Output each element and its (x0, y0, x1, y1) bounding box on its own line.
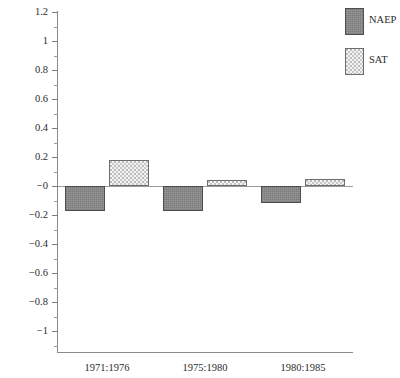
y-tick-minor (54, 172, 58, 173)
bar-sat-1[interactable] (207, 180, 247, 186)
y-tick-major (52, 331, 58, 332)
y-axis-line (57, 11, 58, 352)
y-tick-major (52, 157, 58, 158)
y-tick-label: −1 (0, 326, 48, 337)
sat-swatch-icon (345, 48, 364, 75)
y-tick-label: 1.2 (0, 7, 48, 18)
bar-naep-1[interactable] (163, 186, 203, 211)
x-tick-label: 1975:1980 (156, 362, 254, 373)
y-tick-label: 0.4 (0, 123, 48, 134)
x-tick-label: 1980:1985 (254, 362, 352, 373)
y-tick-minor (54, 114, 58, 115)
y-tick-minor (54, 288, 58, 289)
y-tick-label: −0.4 (0, 239, 48, 250)
legend: NAEP SAT (345, 8, 400, 88)
y-tick-major (52, 99, 58, 100)
legend-item-sat[interactable]: SAT (345, 48, 400, 88)
y-tick-label: −0.6 (0, 268, 48, 279)
legend-label-sat: SAT (369, 54, 388, 65)
y-tick-label: −0 (0, 181, 48, 192)
y-tick-minor (54, 143, 58, 144)
y-tick-label: −0.8 (0, 297, 48, 308)
y-tick-major (52, 302, 58, 303)
y-tick-minor (54, 85, 58, 86)
y-tick-minor (54, 259, 58, 260)
y-tick-major (52, 244, 58, 245)
x-tick-label: 1971:1976 (58, 362, 156, 373)
bar-sat-0[interactable] (109, 160, 149, 186)
y-tick-label: 0.8 (0, 65, 48, 76)
y-tick-major (52, 128, 58, 129)
legend-label-naep: NAEP (369, 14, 396, 25)
y-tick-minor (54, 56, 58, 57)
legend-item-naep[interactable]: NAEP (345, 8, 400, 48)
y-tick-minor (54, 346, 58, 347)
y-tick-major (52, 186, 58, 187)
bar-naep-0[interactable] (65, 186, 105, 211)
y-tick-major (52, 12, 58, 13)
y-tick-minor (54, 27, 58, 28)
x-axis-line (57, 352, 353, 353)
y-tick-major (52, 273, 58, 274)
bar-sat-2[interactable] (305, 179, 345, 186)
y-tick-major (52, 70, 58, 71)
y-tick-major (52, 41, 58, 42)
y-tick-label: 0.6 (0, 94, 48, 105)
y-tick-label: 0.2 (0, 152, 48, 163)
y-tick-minor (54, 317, 58, 318)
y-tick-label: −0.2 (0, 210, 48, 221)
bar-naep-2[interactable] (261, 186, 301, 203)
naep-swatch-icon (345, 8, 364, 35)
y-tick-minor (54, 230, 58, 231)
y-tick-major (52, 215, 58, 216)
y-tick-label: 1 (0, 36, 48, 47)
bar-chart: 1.210.80.60.40.2−0−0.2−0.4−0.6−0.8−1 197… (0, 0, 400, 378)
y-tick-minor (54, 201, 58, 202)
